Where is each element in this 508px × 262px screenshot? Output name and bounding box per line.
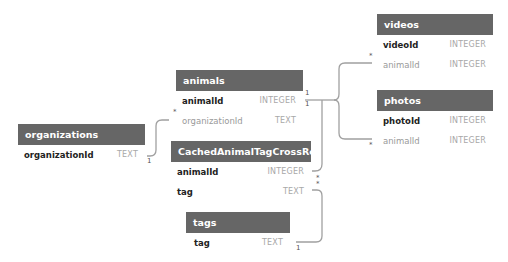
column-type: TEXT (117, 145, 138, 165)
table-photos[interactable]: photos photoId INTEGER animalId INTEGER (377, 90, 493, 151)
column-name: tag (194, 233, 210, 253)
cardinality-label: * (369, 141, 373, 149)
column-name: videoId (383, 35, 418, 55)
column-type: INTEGER (450, 55, 487, 75)
link-animals-videos (334, 63, 372, 100)
table-header: CachedAnimalTagCrossRef (171, 141, 311, 162)
table-column: organizationId TEXT (176, 111, 303, 131)
table-column: photoId INTEGER (377, 111, 493, 131)
table-column: tag TEXT (171, 182, 311, 202)
link-organizations-animals (147, 120, 169, 156)
cardinality-label: 1 (147, 157, 151, 165)
table-column: animalId INTEGER (377, 131, 493, 151)
table-column: organizationId TEXT (18, 145, 145, 165)
column-name: photoId (383, 111, 420, 131)
table-header: photos (377, 90, 493, 111)
column-name: tag (177, 182, 193, 202)
table-videos[interactable]: videos videoId INTEGER animalId INTEGER (377, 14, 493, 75)
table-column: videoId INTEGER (377, 35, 493, 55)
cardinality-label: 1 (305, 89, 309, 97)
table-animals[interactable]: animals animalId INTEGER organizationId … (176, 70, 303, 131)
table-header: tags (186, 212, 290, 233)
column-type: INTEGER (450, 131, 487, 151)
table-column: animalId INTEGER (171, 162, 311, 182)
column-type: INTEGER (450, 111, 487, 131)
cardinality-label: 1 (296, 244, 300, 252)
column-name: animalId (177, 162, 218, 182)
column-name: organizationId (24, 145, 94, 165)
cardinality-label: * (369, 52, 373, 60)
cardinality-label: 1 (305, 100, 309, 108)
column-type: INTEGER (268, 162, 305, 182)
column-type: TEXT (275, 111, 296, 131)
column-name: animalId (182, 91, 223, 111)
column-type: TEXT (283, 182, 304, 202)
table-column: tag TEXT (186, 233, 290, 253)
cardinality-label: * (316, 180, 320, 188)
table-header: animals (176, 70, 303, 91)
table-organizations[interactable]: organizations organizationId TEXT (18, 124, 145, 165)
table-header: videos (377, 14, 493, 35)
column-type: INTEGER (260, 91, 297, 111)
column-type: TEXT (262, 233, 283, 253)
table-cached-animal-tag-cross-ref[interactable]: CachedAnimalTagCrossRef animalId INTEGER… (171, 141, 311, 202)
table-tags[interactable]: tags tag TEXT (186, 212, 290, 253)
link-animals-photos (334, 100, 372, 139)
table-column: animalId INTEGER (377, 55, 493, 75)
table-column: animalId INTEGER (176, 91, 303, 111)
column-type: INTEGER (450, 35, 487, 55)
column-name: organizationId (182, 111, 243, 131)
column-name: animalId (383, 131, 420, 151)
table-header: organizations (18, 124, 145, 145)
column-name: animalId (383, 55, 420, 75)
